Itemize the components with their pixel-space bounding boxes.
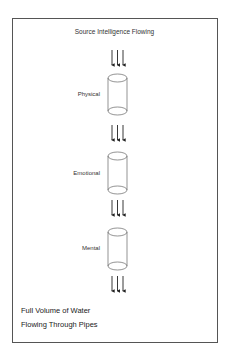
stage-label-mental: Mental	[40, 245, 100, 251]
pipe-cylinder-icon	[108, 228, 127, 270]
caption-line-1: Full Volume of Water	[21, 306, 90, 315]
down-arrows-icon	[112, 125, 123, 140]
down-arrows-icon	[112, 200, 123, 215]
stage-label-emotional: Emotional	[40, 170, 100, 176]
stage-label-physical: Physical	[40, 91, 100, 97]
pipe-cylinder-icon	[108, 74, 127, 115]
caption-line-2: Flowing Through Pipes	[21, 320, 98, 329]
pipe-cylinder-icon	[108, 152, 127, 194]
down-arrows-icon	[112, 50, 123, 65]
down-arrows-icon	[112, 276, 123, 291]
